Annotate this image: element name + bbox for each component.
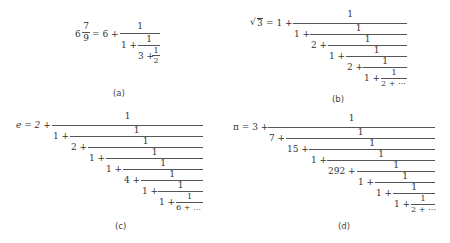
term: 1 + (142, 187, 158, 196)
term: 292 + (328, 167, 356, 176)
numerator: 1 (123, 159, 203, 168)
term: 2 + (347, 63, 363, 72)
denominator: 2 (152, 57, 160, 65)
term: 2 + (311, 41, 327, 50)
fraction-bar (120, 33, 160, 34)
caption: (b) (332, 95, 344, 104)
numerator: 1 (152, 47, 160, 55)
numerator: 1 (309, 139, 435, 148)
numerator: 1 (357, 161, 435, 170)
numerator: 1 (268, 114, 435, 123)
lhs-expression: e = 2 + (16, 121, 51, 130)
term: 1 + (294, 30, 310, 39)
numerator: 1 (176, 193, 203, 201)
numerator: 1 (141, 170, 203, 179)
caption: (a) (113, 89, 125, 98)
continued-tail: 2 + ⋯ (381, 80, 406, 88)
mixed-number-denominator: 9 (81, 34, 91, 43)
fraction-bar (158, 191, 203, 192)
term: 1 + (121, 41, 137, 50)
numerator: 1 (286, 128, 435, 137)
numerator: 1 (310, 24, 407, 33)
term: 1 + (358, 178, 374, 187)
numerator: 1 (138, 35, 160, 44)
numerator: 1 (120, 22, 160, 31)
term: 1 + (159, 198, 175, 207)
continued-tail: 2 + ⋯ (411, 206, 436, 214)
equals-expression: = 6 + (92, 30, 119, 39)
numerator: 1 (328, 35, 407, 44)
numerator: 1 (411, 195, 435, 203)
fraction-bar (363, 67, 407, 68)
term: 1 + (53, 132, 69, 141)
numerator: 1 (293, 10, 407, 19)
numerator: 1 (393, 183, 435, 192)
numerator: 1 (375, 172, 435, 181)
term: 1 + (106, 165, 122, 174)
term: 1 + (89, 154, 105, 163)
term: 15 + (287, 145, 309, 154)
numerator: 1 (363, 57, 407, 66)
numerator: 1 (327, 150, 435, 159)
numerator: 1 (381, 69, 407, 77)
fraction-bar (393, 193, 435, 194)
caption: (d) (338, 222, 350, 231)
numerator: 1 (52, 112, 203, 121)
term: 1 + (311, 156, 327, 165)
term: 7 + (269, 134, 285, 143)
term: 1 + (394, 200, 410, 209)
equals-expression: = 1 + (266, 19, 293, 28)
term: 1 + (364, 74, 380, 83)
lhs-expression: π = 3 + (233, 123, 268, 132)
numerator: 1 (158, 181, 203, 190)
sqrt-symbol: √ (250, 18, 256, 27)
mixed-number-whole: 6 (75, 30, 81, 39)
numerator: 1 (106, 148, 203, 157)
term: 1 + (329, 52, 345, 61)
term: 2 + (71, 143, 87, 152)
sqrt-argument: 3 (257, 18, 263, 28)
numerator: 1 (70, 126, 203, 135)
numerator: 1 (346, 46, 407, 55)
continued-tail: 6 + … (176, 204, 201, 212)
term: 1 + (376, 189, 392, 198)
term: 4 + (124, 176, 140, 185)
caption: (c) (115, 222, 126, 231)
mixed-number-numerator: 7 (81, 22, 91, 31)
numerator: 1 (88, 137, 203, 146)
